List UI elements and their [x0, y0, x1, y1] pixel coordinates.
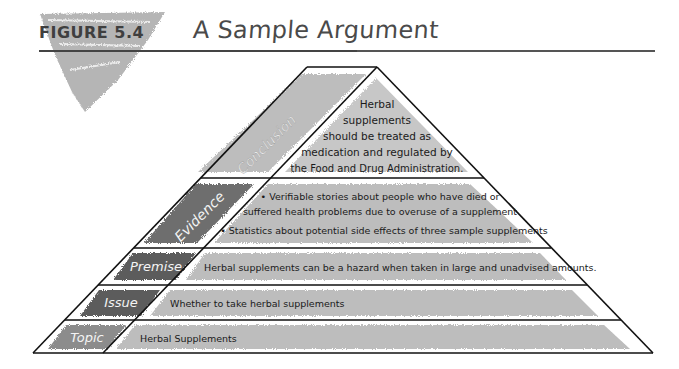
issue-text: Whether to take herbal supplements	[170, 298, 345, 309]
header-rule	[39, 50, 357, 52]
conclusion-line-4: medication and regulated by	[301, 146, 453, 158]
conclusion-line-1: Herbal	[360, 98, 395, 110]
topic-text: Herbal Supplements	[140, 333, 237, 344]
evidence-line-1: • Verifiable stories about people who ha…	[261, 191, 500, 202]
conclusion-line-2: supplements	[343, 114, 411, 126]
conclusion-line-5: the Food and Drug Administration.	[291, 163, 464, 174]
conclusion-line-3: should be treated as	[323, 130, 431, 142]
label-issue: Issue	[104, 295, 138, 310]
figure-label: FIGURE 5.4	[39, 23, 144, 42]
pyramid-diagram: Conclusion Evidence Premise Issue Topic …	[0, 0, 679, 369]
label-topic: Topic	[70, 330, 103, 345]
header-rule-right	[357, 50, 655, 52]
premise-text: Herbal supplements can be a hazard when …	[204, 262, 597, 273]
figure-title: A Sample Argument	[192, 16, 440, 44]
label-premise: Premise	[130, 259, 182, 274]
level-topic	[48, 325, 630, 349]
evidence-line-2: suffered health problems due to overuse …	[243, 206, 517, 217]
evidence-line-3: • Statistics about potential side effect…	[220, 225, 548, 236]
figure-container: Conclusion Evidence Premise Issue Topic …	[0, 0, 679, 369]
